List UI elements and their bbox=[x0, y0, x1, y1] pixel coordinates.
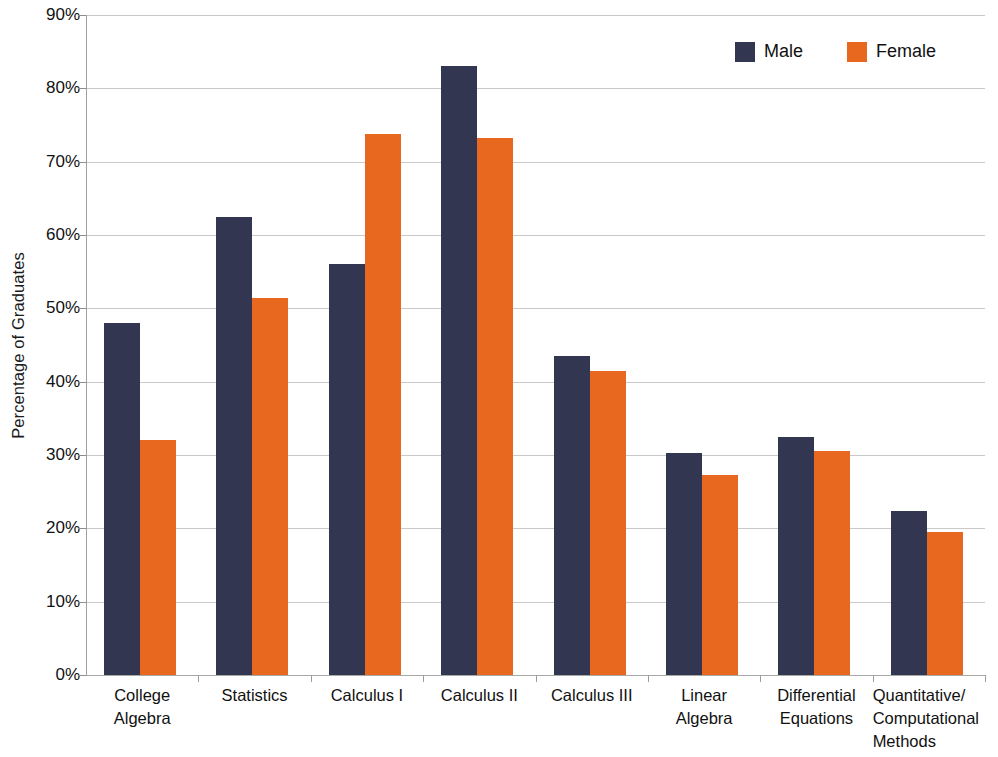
bar-chart: Percentage of Graduates 0%10%20%30%40%50… bbox=[0, 0, 998, 757]
bar-female[interactable] bbox=[252, 298, 288, 675]
x-axis-label-line: Algebra bbox=[648, 707, 760, 730]
x-axis-label-line: Calculus I bbox=[311, 684, 423, 707]
x-tick-mark bbox=[311, 675, 312, 682]
bar-male[interactable] bbox=[104, 323, 140, 675]
bar-male[interactable] bbox=[441, 66, 477, 675]
bar-male[interactable] bbox=[329, 264, 365, 675]
bar-female[interactable] bbox=[702, 475, 738, 675]
bar-group bbox=[760, 15, 872, 675]
x-tick-mark bbox=[423, 675, 424, 682]
y-tick-label-90: 90% bbox=[18, 5, 80, 25]
y-tick-label-20: 20% bbox=[18, 518, 80, 538]
y-tick-label-0: 0% bbox=[18, 665, 80, 685]
y-tick-mark-50 bbox=[78, 308, 86, 309]
y-tick-mark-30 bbox=[78, 455, 86, 456]
x-tick-mark bbox=[648, 675, 649, 682]
x-axis-label-line: Linear bbox=[648, 684, 760, 707]
bars-layer bbox=[86, 15, 985, 675]
x-axis-label-line: Algebra bbox=[86, 707, 198, 730]
y-tick-label-10: 10% bbox=[18, 592, 80, 612]
bar-male[interactable] bbox=[778, 437, 814, 675]
y-tick-mark-20 bbox=[78, 528, 86, 529]
bar-female[interactable] bbox=[140, 440, 176, 675]
bar-female[interactable] bbox=[590, 371, 626, 675]
bar-group bbox=[198, 15, 310, 675]
bar-group bbox=[536, 15, 648, 675]
legend-swatch-female-icon bbox=[847, 42, 867, 62]
bar-female[interactable] bbox=[814, 451, 850, 675]
x-axis-labels: CollegeAlgebraStatisticsCalculus ICalcul… bbox=[86, 684, 998, 757]
x-axis-label: DifferentialEquations bbox=[760, 684, 872, 730]
x-axis-label-line: Equations bbox=[760, 707, 872, 730]
x-tick-mark bbox=[198, 675, 199, 682]
bar-female[interactable] bbox=[927, 532, 963, 675]
bar-group bbox=[648, 15, 760, 675]
x-axis-label: Calculus III bbox=[536, 684, 648, 707]
x-axis-label: Statistics bbox=[198, 684, 310, 707]
x-tick-mark bbox=[873, 675, 874, 682]
bar-group bbox=[311, 15, 423, 675]
y-tick-label-40: 40% bbox=[18, 372, 80, 392]
bar-group bbox=[873, 15, 985, 675]
x-axis-label-line: Calculus II bbox=[423, 684, 535, 707]
bar-group bbox=[423, 15, 535, 675]
x-tick-mark bbox=[985, 675, 986, 682]
x-axis-label-line: Computational bbox=[873, 707, 998, 730]
x-axis-label-line: Calculus III bbox=[536, 684, 648, 707]
y-tick-mark-0 bbox=[78, 675, 86, 676]
bar-group bbox=[86, 15, 198, 675]
x-axis-label-line: Differential bbox=[760, 684, 872, 707]
x-axis-label-line: Methods bbox=[873, 730, 998, 753]
y-tick-label-50: 50% bbox=[18, 298, 80, 318]
legend-label-female: Female bbox=[876, 41, 936, 62]
y-tick-label-30: 30% bbox=[18, 445, 80, 465]
bar-male[interactable] bbox=[666, 453, 702, 675]
y-tick-mark-10 bbox=[78, 602, 86, 603]
legend-label-male: Male bbox=[764, 41, 803, 62]
y-tick-label-80: 80% bbox=[18, 78, 80, 98]
y-axis-ticks: 0%10%20%30%40%50%60%70%80%90% bbox=[0, 0, 80, 757]
x-axis-label: Quantitative/ComputationalMethods bbox=[873, 684, 998, 753]
x-tick-mark bbox=[760, 675, 761, 682]
x-axis-label-line: Quantitative/ bbox=[873, 684, 998, 707]
y-tick-mark-40 bbox=[78, 382, 86, 383]
y-tick-mark-90 bbox=[78, 15, 86, 16]
bar-female[interactable] bbox=[365, 134, 401, 675]
y-tick-label-60: 60% bbox=[18, 225, 80, 245]
bar-male[interactable] bbox=[216, 217, 252, 675]
chart-legend: Male Female bbox=[735, 41, 936, 62]
x-axis-label: Calculus I bbox=[311, 684, 423, 707]
bar-male[interactable] bbox=[554, 356, 590, 675]
legend-swatch-male-icon bbox=[735, 42, 755, 62]
y-tick-label-70: 70% bbox=[18, 152, 80, 172]
legend-entry-male[interactable]: Male bbox=[735, 41, 803, 62]
x-axis-label: LinearAlgebra bbox=[648, 684, 760, 730]
y-tick-mark-60 bbox=[78, 235, 86, 236]
y-tick-mark-80 bbox=[78, 88, 86, 89]
x-axis-label-line: Statistics bbox=[198, 684, 310, 707]
x-axis-label: CollegeAlgebra bbox=[86, 684, 198, 730]
x-tick-mark bbox=[536, 675, 537, 682]
legend-entry-female[interactable]: Female bbox=[847, 41, 936, 62]
x-axis-label-line: College bbox=[86, 684, 198, 707]
x-axis-label: Calculus II bbox=[423, 684, 535, 707]
y-tick-mark-70 bbox=[78, 162, 86, 163]
bar-male[interactable] bbox=[891, 511, 927, 675]
bar-female[interactable] bbox=[477, 138, 513, 675]
